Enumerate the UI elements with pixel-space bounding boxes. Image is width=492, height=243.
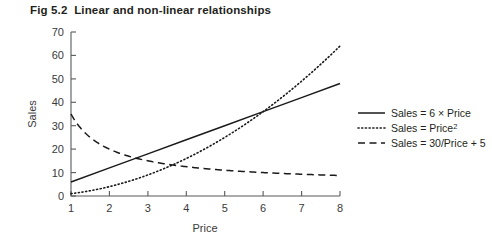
y-tick-label: 70	[52, 26, 64, 38]
series-line-reciprocal	[71, 114, 340, 176]
y-tick-labels: 0 10 20 30 40 50 60 70	[52, 26, 64, 202]
legend-label-quadratic: Sales = Price2	[391, 122, 457, 135]
x-tick-label: 6	[260, 202, 266, 214]
x-tick-label: 3	[145, 202, 151, 214]
y-tick-label: 40	[52, 96, 64, 108]
x-tick-label: 2	[106, 202, 112, 214]
y-tick-label: 30	[52, 120, 64, 132]
y-tick-label: 50	[52, 73, 64, 85]
y-tick-label: 20	[52, 143, 64, 155]
figure-container: Fig 5.2 Linear and non-linear relationsh…	[0, 0, 492, 243]
chart-legend: Sales = 6 × Price Sales = Price2 Sales =…	[358, 107, 486, 149]
legend-label-quadratic-exponent: 2	[453, 122, 457, 131]
x-tick-label: 1	[68, 202, 74, 214]
legend-label-linear: Sales = 6 × Price	[391, 107, 471, 119]
legend-label-reciprocal: Sales = 30/Price + 5	[391, 137, 486, 149]
chart-axes	[71, 32, 340, 196]
x-tick-label: 8	[337, 202, 343, 214]
x-tick-label: 4	[183, 202, 189, 214]
y-tick-label: 0	[58, 190, 64, 202]
x-tick-labels: 1 2 3 4 5 6 7 8	[68, 202, 343, 214]
chart-plot: 0 10 20 30 40 50 60 70 1 2 3 4 5 6 7 8 P…	[0, 0, 492, 243]
x-tick-marks	[71, 191, 340, 196]
x-tick-label: 5	[222, 202, 228, 214]
legend-label-quadratic-main: Sales = Price	[391, 122, 453, 134]
series-line-linear	[71, 84, 340, 182]
series-line-quadratic	[71, 46, 340, 194]
x-axis-title: Price	[192, 222, 217, 234]
y-axis-title: Sales	[26, 100, 38, 128]
x-tick-label: 7	[299, 202, 305, 214]
y-tick-label: 10	[52, 167, 64, 179]
y-tick-label: 60	[52, 49, 64, 61]
